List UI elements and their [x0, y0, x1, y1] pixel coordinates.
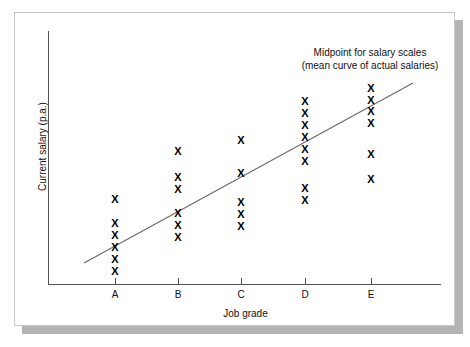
data-point-a-5: X [108, 264, 122, 278]
data-point-e-28: X [364, 116, 378, 130]
data-point-d-24: X [298, 193, 312, 207]
data-point-c-12: X [234, 133, 248, 147]
y-axis-title: Current salary (p.a.) [37, 67, 48, 227]
figure-page: ABCDE XXXXXXXXXXXXXXXXXXXXXXXXXXXXXXX Mi… [0, 0, 470, 347]
data-point-a-0: X [108, 192, 122, 206]
data-point-c-13: X [234, 166, 248, 180]
data-point-e-30: X [364, 172, 378, 186]
annotation-line-1: Midpoint for salary scales [280, 46, 460, 59]
chart-card: ABCDE XXXXXXXXXXXXXXXXXXXXXXXXXXXXXXX Mi… [14, 12, 455, 326]
data-point-b-11: X [171, 230, 185, 244]
trend-line-annotation: Midpoint for salary scales (mean curve o… [280, 46, 460, 72]
data-point-e-29: X [364, 147, 378, 161]
data-point-c-16: X [234, 219, 248, 233]
x-axis-title: Job grade [15, 308, 456, 319]
data-point-b-8: X [171, 182, 185, 196]
plot-area: ABCDE XXXXXXXXXXXXXXXXXXXXXXXXXXXXXXX Mi… [15, 13, 456, 327]
annotation-line-2: (mean curve of actual salaries) [280, 59, 460, 72]
data-point-d-22: X [298, 154, 312, 168]
data-point-b-6: X [171, 144, 185, 158]
